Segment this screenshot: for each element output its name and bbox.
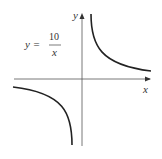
equation-lhs-text: y = — [25, 38, 40, 50]
curve-first-quadrant — [91, 14, 151, 71]
equation-numerator: 10 — [49, 31, 59, 42]
x-axis-label: x — [143, 83, 148, 95]
equation-lhs: y = — [25, 38, 40, 50]
y-axis-arrow-icon — [80, 13, 85, 19]
hyperbola-graph — [0, 0, 162, 159]
curve-third-quadrant — [13, 87, 72, 145]
equation-denominator: x — [52, 46, 57, 58]
x-axis-arrow-icon — [145, 77, 151, 82]
y-axis-label: y — [73, 9, 78, 21]
